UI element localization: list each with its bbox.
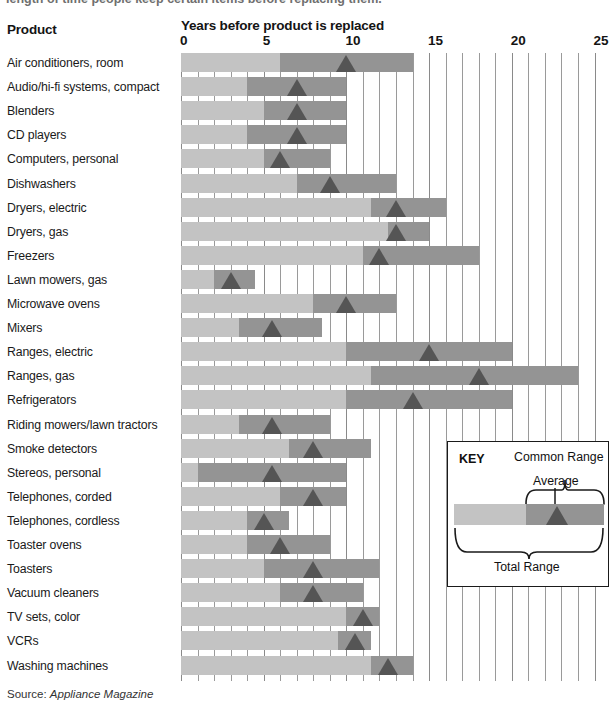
- legend-common-range-label: Common Range: [514, 450, 604, 464]
- product-column-header: Product: [7, 22, 57, 37]
- product-label: Stereos, personal: [7, 466, 101, 480]
- axis-title: Years before product is replaced: [181, 18, 384, 33]
- product-label: CD players: [7, 128, 66, 142]
- chart-row: [181, 390, 595, 409]
- chart-page: length of time people keep certain items…: [0, 0, 616, 710]
- legend-total-range-brace: [453, 528, 605, 560]
- product-label: Air conditioners, room: [7, 56, 123, 70]
- chart-row: [181, 174, 595, 193]
- chart-row: [181, 270, 595, 289]
- average-marker: [303, 441, 323, 458]
- chart-row: [181, 294, 595, 313]
- chart-row: [181, 342, 595, 361]
- product-label: Toaster ovens: [7, 538, 82, 552]
- product-label: Microwave ovens: [7, 297, 100, 311]
- product-label: VCRs: [7, 634, 39, 648]
- legend-common-range-brace: [524, 466, 606, 506]
- x-tick-label-20: 20: [511, 33, 526, 48]
- product-label: Riding mowers/lawn tractors: [7, 418, 157, 432]
- product-label: Refrigerators: [7, 393, 76, 407]
- product-label: Computers, personal: [7, 152, 118, 166]
- average-marker: [221, 272, 241, 289]
- average-marker: [287, 103, 307, 120]
- common-range-bar: [371, 198, 445, 217]
- intro-text-clip: length of time people keep certain items…: [0, 0, 616, 11]
- chart-row: [181, 607, 595, 626]
- product-label: Mixers: [7, 321, 42, 335]
- product-label: Telephones, cordless: [7, 514, 120, 528]
- chart-row: [181, 222, 595, 241]
- common-range-bar: [346, 390, 511, 409]
- x-tick-label-15: 15: [428, 33, 443, 48]
- chart-row: [181, 198, 595, 217]
- product-label: Smoke detectors: [7, 442, 97, 456]
- chart-row: [181, 656, 595, 675]
- common-range-bar: [297, 174, 396, 193]
- product-label: Blenders: [7, 104, 54, 118]
- average-marker: [287, 79, 307, 96]
- product-label: Ranges, gas: [7, 369, 74, 383]
- product-label: Lawn mowers, gas: [7, 273, 107, 287]
- average-marker: [320, 176, 340, 193]
- chart-row: [181, 149, 595, 168]
- product-label: Ranges, electric: [7, 345, 93, 359]
- product-label: TV sets, color: [7, 610, 80, 624]
- average-marker: [287, 127, 307, 144]
- average-marker: [303, 585, 323, 602]
- legend-title: KEY: [459, 452, 485, 466]
- product-label: Toasters: [7, 562, 52, 576]
- legend-total-range-label: Total Range: [494, 560, 560, 574]
- intro-text: length of time people keep certain items…: [6, 0, 382, 6]
- average-marker: [469, 368, 489, 385]
- chart-row: [181, 366, 595, 385]
- average-marker: [303, 561, 323, 578]
- chart-row: [181, 415, 595, 434]
- average-marker: [386, 200, 406, 217]
- average-marker: [378, 658, 398, 675]
- average-marker: [303, 489, 323, 506]
- product-label: Dryers, gas: [7, 225, 68, 239]
- chart-row: [181, 631, 595, 650]
- average-marker: [254, 513, 274, 530]
- x-tick-label-5: 5: [263, 33, 271, 48]
- x-tick-label-25: 25: [594, 33, 609, 48]
- product-label: Dishwashers: [7, 177, 76, 191]
- average-marker: [353, 609, 373, 626]
- chart-row: [181, 53, 595, 72]
- source-note: Source: Appliance Magazine: [7, 688, 153, 700]
- average-marker: [386, 224, 406, 241]
- product-label: Freezers: [7, 249, 54, 263]
- chart-row: [181, 77, 595, 96]
- average-marker: [419, 344, 439, 361]
- average-marker: [336, 55, 356, 72]
- average-marker: [369, 248, 389, 265]
- product-label: Audio/hi-fi systems, compact: [7, 80, 159, 94]
- average-marker: [270, 151, 290, 168]
- chart-row: [181, 318, 595, 337]
- average-marker: [403, 392, 423, 409]
- legend-average-marker: [546, 506, 568, 525]
- source-value: Appliance Magazine: [50, 688, 154, 700]
- product-label: Washing machines: [7, 659, 108, 673]
- average-marker: [345, 633, 365, 650]
- chart-row: [181, 125, 595, 144]
- product-label: Dryers, electric: [7, 201, 87, 215]
- chart-row: [181, 101, 595, 120]
- average-marker: [262, 465, 282, 482]
- legend-key-box: KEY Common Range Average Total Range: [447, 441, 609, 587]
- common-range-bar: [289, 439, 372, 458]
- x-tick-label-10: 10: [345, 33, 360, 48]
- average-marker: [270, 537, 290, 554]
- average-marker: [336, 296, 356, 313]
- average-marker: [262, 320, 282, 337]
- source-label: Source:: [7, 688, 47, 700]
- product-label: Vacuum cleaners: [7, 586, 99, 600]
- average-marker: [262, 417, 282, 434]
- common-range-bar: [239, 415, 330, 434]
- product-label: Telephones, corded: [7, 490, 112, 504]
- x-tick-label-0: 0: [180, 33, 188, 48]
- chart-row: [181, 246, 595, 265]
